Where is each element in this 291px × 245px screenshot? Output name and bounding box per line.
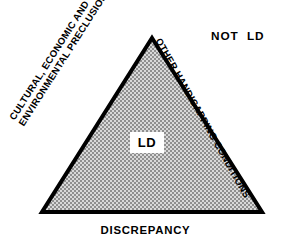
label-ld-center: LD (130, 132, 164, 153)
triangle-outline (42, 38, 262, 212)
ld-triangle-diagram: CULTURAL, ECONOMIC AND ENVIRONMENTAL PRE… (0, 0, 291, 245)
label-discrepancy: DISCREPANCY (0, 224, 291, 236)
label-not-ld: NOT LD (211, 29, 264, 43)
